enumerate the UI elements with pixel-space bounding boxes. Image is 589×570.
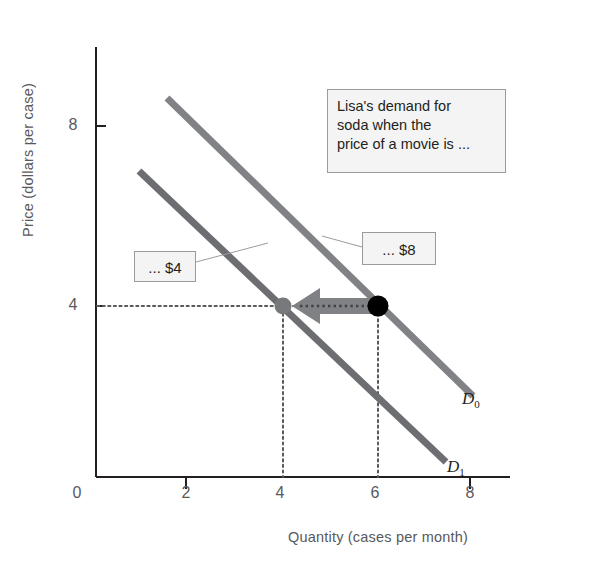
demand-curve-figure: Price (dollars per case) Quantity (cases… (0, 0, 589, 570)
x-tick-label-2: 2 (175, 484, 197, 502)
demand-curve-d1 (139, 171, 446, 462)
x-axis-title: Quantity (cases per month) (288, 529, 468, 545)
leader-line-price-8 (322, 236, 362, 247)
chart-plot-area (0, 0, 589, 570)
x-tick-label-6: 6 (364, 484, 386, 502)
curve-label-d0: D0 (462, 389, 480, 410)
callout-main-description: Lisa's demand for soda when the price of… (327, 89, 506, 173)
y-tick-label-4: 4 (62, 296, 84, 314)
callout-price-8: ... $8 (362, 232, 436, 265)
curve-label-d0-letter: D (462, 389, 474, 408)
point-on-d1-marker (275, 298, 292, 315)
x-tick-label-4: 4 (269, 484, 291, 502)
curve-label-d0-subscript: 0 (474, 398, 480, 410)
curve-label-d1-letter: D (447, 457, 459, 476)
x-tick-label-8: 8 (459, 484, 481, 502)
x-tick-label-0: 0 (66, 484, 88, 502)
curve-label-d1: D1 (447, 457, 465, 478)
y-tick-label-8: 8 (62, 116, 84, 134)
callout-price-4: ... $4 (134, 251, 196, 282)
callout-main-line-3: price of a movie is ... (337, 135, 505, 154)
callout-main-line-1: Lisa's demand for (337, 97, 505, 116)
y-axis-title: Price (dollars per case) (20, 60, 36, 260)
point-on-d0-marker (368, 296, 389, 317)
callout-main-line-2: soda when the (337, 116, 505, 135)
curve-label-d1-subscript: 1 (459, 466, 465, 478)
